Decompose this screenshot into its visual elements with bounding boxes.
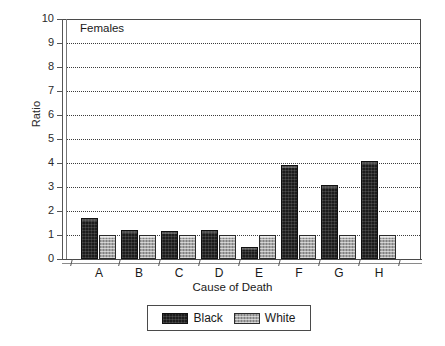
y-axis-tick <box>57 91 63 92</box>
x-axis-title: Cause of Death <box>0 281 445 293</box>
bar-black-c <box>161 231 178 259</box>
bar-group <box>321 19 357 259</box>
bar-black-b <box>121 230 138 259</box>
legend-label-white: White <box>265 311 296 325</box>
bar-group <box>81 19 117 259</box>
bar-black-f <box>281 165 298 259</box>
bar-black-a <box>81 218 98 259</box>
y-axis-tick <box>57 115 63 116</box>
y-axis-tick-label: 6 <box>14 109 54 120</box>
y-axis-tick-label: 5 <box>14 133 54 144</box>
x-axis-line-inner <box>62 263 422 264</box>
x-axis-tick-label-e: E <box>244 266 274 280</box>
y-axis-tick-label: 1 <box>14 229 54 240</box>
x-axis-tick-label-h: H <box>364 266 394 280</box>
y-axis-tick <box>57 19 63 20</box>
y-axis-tick-label: 2 <box>14 205 54 216</box>
bar-group <box>201 19 237 259</box>
bar-white-c <box>179 235 196 259</box>
y-axis-tick-label: 7 <box>14 85 54 96</box>
bar-black-e <box>241 247 258 259</box>
y-axis-tick <box>57 43 63 44</box>
y-axis-tick <box>57 235 63 236</box>
x-axis-tick-label-b: B <box>124 266 154 280</box>
bar-white-b <box>139 235 156 259</box>
bar-group <box>361 19 397 259</box>
bar-group <box>121 19 157 259</box>
x-axis-line-outer <box>62 259 422 260</box>
y-axis-tick-label: 3 <box>14 181 54 192</box>
bars-layer <box>67 19 420 259</box>
x-axis-tick-label-d: D <box>204 266 234 280</box>
bar-white-f <box>299 235 316 259</box>
bar-black-d <box>201 230 218 259</box>
legend-item-black[interactable]: Black <box>162 311 222 325</box>
y-axis-tick <box>57 259 63 260</box>
bar-group <box>161 19 197 259</box>
y-axis-tick <box>57 139 63 140</box>
bar-group <box>281 19 317 259</box>
y-axis-tick-label: 8 <box>14 61 54 72</box>
chart-legend: BlackWhite <box>147 305 311 331</box>
legend-swatch-black <box>162 313 188 324</box>
bar-white-a <box>99 235 116 259</box>
y-axis-tick <box>57 187 63 188</box>
y-axis-tick-label: 4 <box>14 157 54 168</box>
legend-swatch-white <box>234 313 260 324</box>
y-axis-tick-label: 10 <box>14 13 54 24</box>
bar-white-e <box>259 235 276 259</box>
x-axis-tick-label-f: F <box>284 266 314 280</box>
legend-item-white[interactable]: White <box>234 311 296 325</box>
bar-white-d <box>219 235 236 259</box>
bar-white-g <box>339 235 356 259</box>
y-axis-tick <box>57 67 63 68</box>
y-axis-tick <box>57 211 63 212</box>
bar-chart: Ratio 012345678910 Females ABCDEFGH Caus… <box>0 0 445 346</box>
y-axis-tick-label: 0 <box>14 253 54 264</box>
bar-group <box>241 19 277 259</box>
x-axis-tick-label-a: A <box>84 266 114 280</box>
x-axis-tick-label-c: C <box>164 266 194 280</box>
x-axis-tick-label-g: G <box>324 266 354 280</box>
y-axis-tick <box>57 163 63 164</box>
bar-black-h <box>361 161 378 259</box>
bar-black-g <box>321 185 338 259</box>
bar-white-h <box>379 235 396 259</box>
y-axis-tick-label: 9 <box>14 37 54 48</box>
legend-label-black: Black <box>193 311 222 325</box>
